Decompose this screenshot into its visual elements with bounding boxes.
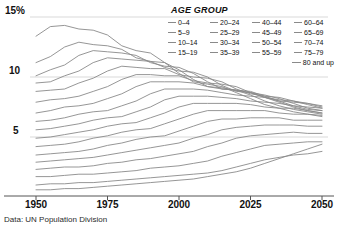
series-line-65-69 (36, 132, 322, 169)
legend-item-65-69[interactable]: 65–69 (294, 28, 336, 37)
age-distribution-chart: 15% 10 5 1950 1975 2000 2025 2050 AGE GR… (0, 0, 338, 234)
y-tick-label-10: 10 (9, 65, 20, 76)
legend-item-75-79[interactable]: 75–79 (294, 48, 336, 57)
legend-item-label: 30–34 (220, 38, 239, 47)
legend-item-label: 60–64 (304, 18, 323, 27)
legend-item-label: 50–54 (262, 38, 281, 47)
legend-item-50-54[interactable]: 50–54 (252, 38, 294, 47)
x-tick-label-2000: 2000 (168, 199, 190, 210)
legend-item-45-49[interactable]: 45–49 (252, 28, 294, 37)
legend-item-70-74[interactable]: 70–74 (294, 38, 336, 47)
legend-swatch-icon (252, 32, 260, 33)
legend-item-label: 65–69 (304, 28, 323, 37)
legend-swatch-icon (294, 32, 302, 33)
legend-item-55-59[interactable]: 55–59 (252, 48, 294, 57)
legend-swatch-icon (168, 32, 176, 33)
series-line-70-74 (36, 142, 322, 177)
y-tick-label-15: 15% (5, 5, 25, 16)
legend-item-label: 15–19 (178, 48, 197, 57)
legend-swatch-icon (210, 42, 218, 43)
legend-item-35-39[interactable]: 35–39 (210, 48, 252, 57)
legend-item-label: 40–44 (262, 18, 281, 27)
legend-item-0-4[interactable]: 0–4 (168, 18, 210, 27)
legend-item-label: 10–14 (178, 38, 197, 47)
legend-item-label: 80 and up (303, 58, 334, 67)
legend-swatch-icon (210, 22, 218, 23)
legend-swatch-icon (210, 32, 218, 33)
legend-item-80-and-up[interactable]: 80 and up (292, 58, 336, 67)
legend-item-25-29[interactable]: 25–29 (210, 28, 252, 37)
legend-item-30-34[interactable]: 30–34 (210, 38, 252, 47)
legend-swatch-icon (292, 62, 301, 63)
legend-item-label: 20–24 (220, 18, 239, 27)
y-tick-label-5: 5 (13, 125, 18, 136)
legend-item-15-19[interactable]: 15–19 (168, 48, 210, 57)
legend-swatch-icon (294, 22, 302, 23)
legend-swatch-icon (294, 52, 302, 53)
legend-item-label: 35–39 (220, 48, 239, 57)
legend-swatch-icon (168, 22, 176, 23)
legend-swatch-icon (252, 52, 260, 53)
legend-swatch-icon (168, 42, 176, 43)
legend-item-10-14[interactable]: 10–14 (168, 38, 210, 47)
legend-items: 0–420–2440–4460–645–925–2945–4965–6910–1… (168, 18, 336, 67)
legend-swatch-icon (168, 52, 176, 53)
legend-item-label: 5–9 (178, 28, 190, 37)
legend-item-label: 55–59 (262, 48, 281, 57)
series-line-50-54 (36, 111, 322, 147)
legend-item-60-64[interactable]: 60–64 (294, 18, 336, 27)
legend-item-40-44[interactable]: 40–44 (252, 18, 294, 27)
legend-title: AGE GROUP (171, 5, 336, 15)
x-tick-label-2025: 2025 (239, 199, 261, 210)
legend-item-5-9[interactable]: 5–9 (168, 28, 210, 37)
source-note: Data: UN Population Division (4, 215, 107, 224)
legend-item-label: 75–79 (304, 48, 323, 57)
x-tick-label-1975: 1975 (96, 199, 118, 210)
legend-item-label: 45–49 (262, 28, 281, 37)
series-line-35-39 (36, 89, 322, 121)
legend-swatch-icon (252, 42, 260, 43)
legend-swatch-icon (294, 42, 302, 43)
x-tick-label-1950: 1950 (25, 199, 47, 210)
legend: AGE GROUP 0–420–2440–4460–645–925–2945–4… (168, 5, 336, 67)
legend-item-20-24[interactable]: 20–24 (210, 18, 252, 27)
legend-swatch-icon (252, 22, 260, 23)
legend-swatch-icon (210, 52, 218, 53)
legend-item-label: 70–74 (304, 38, 323, 47)
legend-item-label: 0–4 (178, 18, 190, 27)
x-tick-label-2050: 2050 (311, 199, 333, 210)
legend-item-label: 25–29 (220, 28, 239, 37)
